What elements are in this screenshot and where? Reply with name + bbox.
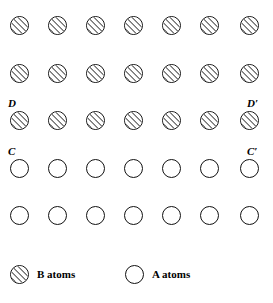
legend: B atomsA atoms (0, 258, 273, 290)
b-atom-circle (240, 111, 259, 130)
b-atom-circle (48, 16, 67, 35)
b-atom-circle (48, 111, 67, 130)
a-atom-circle (200, 159, 219, 178)
lattice-label-cp: C′ (247, 146, 257, 157)
b-atom-circle (124, 111, 143, 130)
legend-label: B atoms (37, 269, 75, 280)
lattice-label-c: C (8, 146, 15, 157)
legend-entry-a-atoms: A atoms (125, 263, 190, 285)
b-atom-circle (10, 111, 29, 130)
b-atom-circle (10, 64, 29, 83)
b-atom-circle (240, 16, 259, 35)
a-atom-circle (162, 159, 181, 178)
b-atom-circle (48, 64, 67, 83)
hatched-circle-icon (10, 265, 29, 284)
a-atom-circle (10, 206, 29, 225)
b-atom-circle (86, 16, 105, 35)
a-atom-circle (124, 206, 143, 225)
lattice-figure: DD′CC′ B atomsA atoms (0, 0, 273, 303)
a-atom-circle (124, 159, 143, 178)
a-atom-circle (200, 206, 219, 225)
open-circle-icon (125, 265, 144, 284)
b-atom-circle (124, 16, 143, 35)
legend-entry-b-atoms: B atoms (10, 263, 75, 285)
a-atom-circle (48, 159, 67, 178)
a-atom-circle (162, 206, 181, 225)
a-atom-circle (86, 159, 105, 178)
b-atom-circle (200, 111, 219, 130)
b-atom-circle (200, 64, 219, 83)
b-atom-circle (240, 64, 259, 83)
a-atom-circle (240, 206, 259, 225)
b-atom-circle (162, 64, 181, 83)
b-atom-circle (124, 64, 143, 83)
a-atom-circle (86, 206, 105, 225)
b-atom-circle (162, 16, 181, 35)
a-atom-circle (10, 159, 29, 178)
b-atom-circle (10, 16, 29, 35)
legend-label: A atoms (152, 269, 190, 280)
b-atom-circle (86, 111, 105, 130)
lattice-label-d: D (8, 98, 16, 109)
a-atom-circle (48, 206, 67, 225)
lattice-label-dp: D′ (247, 98, 258, 109)
a-atom-circle (240, 159, 259, 178)
b-atom-circle (162, 111, 181, 130)
b-atom-circle (86, 64, 105, 83)
b-atom-circle (200, 16, 219, 35)
